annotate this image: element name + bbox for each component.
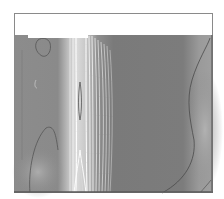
header-band	[14, 13, 213, 35]
contour-plot	[0, 0, 224, 199]
header-band-notch	[28, 35, 88, 38]
plot-area	[12, 35, 223, 198]
contour-figure	[0, 0, 224, 199]
